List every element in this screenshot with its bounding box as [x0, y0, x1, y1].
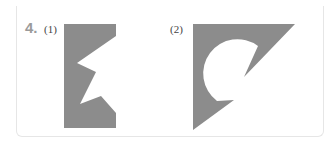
- figure-1-shape: [64, 24, 116, 128]
- figure-2-shape: [193, 24, 295, 130]
- figures-canvas: [0, 0, 333, 147]
